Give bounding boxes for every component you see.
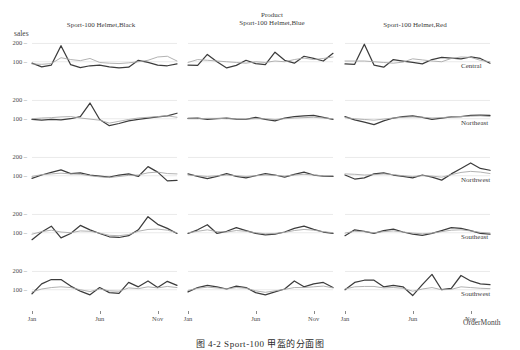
x-tick-label: Jan — [20, 315, 44, 322]
y-tick-label: 200 – — [5, 153, 27, 160]
y-tick-label: 100 – — [5, 115, 27, 122]
line-series_a-Central-Sport-100 Helmet,Black — [32, 46, 177, 68]
line-series_a-Southwest-Sport-100 Helmet,Blue — [188, 281, 333, 295]
figure-root: sales Product Sport-100 Helmet,Black Spo… — [0, 0, 520, 350]
y-tick-label: 200 – — [5, 267, 27, 274]
x-tick-label: Jan — [333, 315, 357, 322]
figure-caption: 图 4-2 Sport-100 甲盔的分面图 — [0, 337, 520, 350]
y-tick-label: 200 – — [5, 210, 27, 217]
x-tick-mark — [345, 311, 346, 314]
y-tick-label: 200 – — [5, 39, 27, 46]
y-tick-label: 100 – — [5, 229, 27, 236]
line-series_a-Central-Sport-100 Helmet,Red — [345, 44, 490, 67]
line-series_b-Southeast-Sport-100 Helmet,Blue — [188, 229, 333, 233]
y-tick-label: 100 – — [5, 286, 27, 293]
x-tick-label: Nov — [146, 315, 170, 322]
x-tick-mark — [471, 311, 472, 314]
line-series_a-Southeast-Sport-100 Helmet,Black — [32, 217, 177, 240]
y-tick-label: 100 – — [5, 58, 27, 65]
x-tick-label: Jan — [176, 315, 200, 322]
line-series_b-Southwest-Sport-100 Helmet,Red — [345, 286, 490, 291]
x-tick-mark — [158, 311, 159, 314]
x-tick-mark — [314, 311, 315, 314]
x-tick-mark — [256, 311, 257, 314]
line-series_a-Northeast-Sport-100 Helmet,Black — [32, 103, 177, 126]
x-tick-mark — [32, 311, 33, 314]
x-tick-label: Jun — [88, 315, 112, 322]
y-tick-label: 200 – — [5, 96, 27, 103]
y-tick-label: 100 – — [5, 172, 27, 179]
x-tick-label: Nov — [302, 315, 326, 322]
x-tick-label: Jun — [401, 315, 425, 322]
line-series_b-Southeast-Sport-100 Helmet,Red — [345, 230, 490, 234]
x-tick-mark — [100, 311, 101, 314]
x-tick-label: Nov — [459, 315, 483, 322]
x-tick-mark — [188, 311, 189, 314]
x-tick-label: Jun — [244, 315, 268, 322]
line-series_b-Southwest-Sport-100 Helmet,Blue — [188, 286, 333, 292]
x-tick-mark — [413, 311, 414, 314]
line-series_b-Southwest-Sport-100 Helmet,Black — [32, 286, 177, 291]
facet-grid — [0, 0, 520, 350]
line-series_a-Southwest-Sport-100 Helmet,Red — [345, 274, 490, 295]
